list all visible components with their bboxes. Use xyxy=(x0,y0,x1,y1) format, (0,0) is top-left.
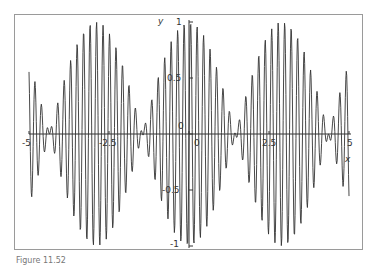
x-tick-label: -5 xyxy=(22,139,31,148)
y-tick-label: 0.5 xyxy=(167,74,181,83)
x-tick-label: -2.5 xyxy=(99,139,117,148)
x-axis-title: x xyxy=(345,154,350,164)
y-tick-label: 1 xyxy=(176,18,182,27)
y-tick-label: -0.5 xyxy=(162,186,180,195)
x-tick-label: 0 xyxy=(194,139,200,148)
y-tick-label: 0 xyxy=(178,122,184,131)
y-axis-title: y xyxy=(158,16,163,26)
y-tick-label: -1 xyxy=(170,240,179,249)
figure-caption: Figure 11.52 xyxy=(16,256,66,265)
x-tick-label: 2.5 xyxy=(262,139,276,148)
x-tick-label: 5 xyxy=(347,139,353,148)
